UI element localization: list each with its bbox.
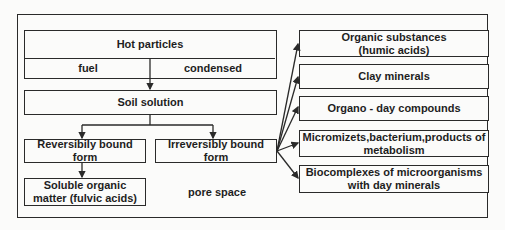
connector-arrows xyxy=(0,0,505,230)
